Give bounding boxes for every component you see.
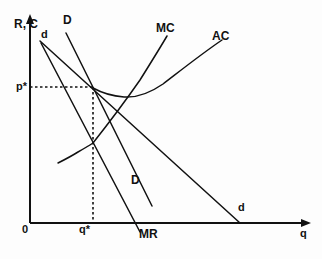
average-cost-curve xyxy=(93,40,222,97)
marginal-revenue-curve xyxy=(41,43,140,232)
economics-diagram: R, C d D MC AC p* D d 0 q* MR q xyxy=(0,0,322,259)
firm-demand-top-label: d xyxy=(41,29,48,40)
origin-label: 0 xyxy=(22,224,28,235)
average-cost-label: AC xyxy=(212,30,229,42)
marginal-cost-label: MC xyxy=(156,22,175,34)
x-axis-label: q xyxy=(300,228,307,239)
market-demand-bottom-label: D xyxy=(131,174,140,186)
y-axis-label: R, C xyxy=(14,18,38,30)
quantity-axis-label: q* xyxy=(79,224,90,235)
x-axis-arrowhead xyxy=(301,219,311,227)
firm-demand-bottom-label: d xyxy=(238,202,245,213)
marginal-revenue-label: MR xyxy=(139,228,158,240)
firm-demand-curve-dd xyxy=(40,41,240,223)
plot-canvas xyxy=(0,0,322,259)
market-demand-top-label: D xyxy=(63,14,72,26)
marginal-cost-curve xyxy=(58,36,167,163)
price-axis-label: p* xyxy=(16,81,27,92)
